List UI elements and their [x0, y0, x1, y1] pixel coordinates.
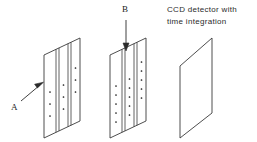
- panel-dots: [115, 61, 142, 123]
- label-a: A: [11, 102, 18, 112]
- ccd-detector-panel: [180, 38, 212, 138]
- ccd-caption-line2: time integration: [167, 17, 227, 26]
- panel-outline: [180, 38, 212, 138]
- panel-stripes: [56, 42, 71, 132]
- first-grating-panel: [44, 38, 80, 138]
- panel-outline: [44, 38, 80, 138]
- second-grating-panel: [110, 38, 146, 138]
- ccd-caption-line1: CCD detector with: [167, 5, 237, 14]
- panel-dots: [49, 67, 76, 117]
- label-b: B: [122, 4, 128, 14]
- optics-diagram: CCD detector with time integration: [0, 0, 257, 142]
- arrow-a: [21, 82, 44, 101]
- panel-outline: [110, 38, 146, 138]
- diagram-canvas: CCD detector with time integration: [0, 0, 257, 142]
